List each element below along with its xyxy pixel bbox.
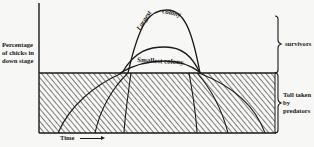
right-arrow-icon bbox=[80, 138, 102, 139]
x-axis-label: Time bbox=[60, 134, 75, 142]
predators-brace bbox=[275, 73, 281, 133]
predator-toll-region bbox=[39, 73, 275, 133]
predators-label: Toll taken by predators bbox=[283, 91, 313, 116]
y-axis-label: Percentage of chicks in down stage bbox=[2, 41, 40, 66]
diagram-canvas: Largest colony Smallest colony bbox=[0, 0, 314, 147]
survivors-label: survivors bbox=[285, 40, 311, 48]
survivors-brace bbox=[275, 16, 281, 73]
largest-colony-label-2: colony bbox=[162, 7, 183, 19]
largest-colony-label: Largest bbox=[134, 8, 153, 32]
smallest-colony-label: Smallest colony bbox=[137, 56, 184, 66]
